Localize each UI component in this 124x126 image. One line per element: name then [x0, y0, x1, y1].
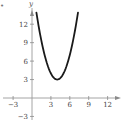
y-tick-label: 12: [19, 21, 28, 29]
x-tick-label: −3: [8, 101, 18, 109]
y-tick-label: 3: [24, 76, 28, 84]
x-tick-label: 12: [103, 101, 112, 109]
parabola-curve: [36, 13, 78, 80]
y-tick-label: 6: [24, 58, 29, 66]
y-tick-label: −3: [18, 113, 28, 121]
y-axis-arrow-icon: [30, 10, 34, 16]
x-tick-label: 9: [86, 101, 90, 109]
y-tick-label: 9: [24, 39, 28, 47]
y-axis-label: y: [28, 0, 34, 8]
item-bullet: •: [0, 2, 4, 10]
y-axis: y: [28, 0, 34, 120]
x-tick-label: 6: [68, 101, 73, 109]
parabola-chart: • y −336912 −336912: [0, 0, 124, 126]
x-tick-label: 3: [49, 101, 53, 109]
x-axis: [3, 96, 121, 100]
x-axis-arrow-icon: [115, 96, 121, 100]
